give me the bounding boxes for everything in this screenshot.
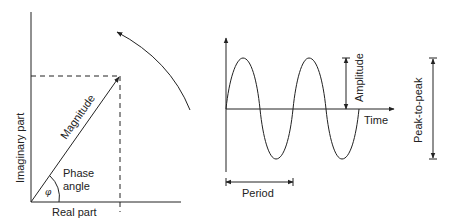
amplitude-label: Amplitude bbox=[353, 53, 365, 102]
rotation-arrow bbox=[117, 32, 190, 110]
angle-label: angle bbox=[63, 180, 90, 192]
period-label: Period bbox=[242, 187, 274, 199]
phasor-waveform-diagram: Imaginary part Real part Magnitude Phase… bbox=[0, 0, 453, 222]
phasor-diagram: Imaginary part Real part Magnitude Phase… bbox=[14, 12, 190, 218]
phase-label: Phase bbox=[63, 167, 94, 179]
phi-symbol: φ bbox=[45, 187, 52, 197]
phase-angle-arc bbox=[50, 176, 59, 202]
time-label: Time bbox=[364, 114, 388, 126]
real-part-label: Real part bbox=[52, 206, 97, 218]
imaginary-part-label: Imaginary part bbox=[14, 113, 26, 183]
peak-to-peak-label: Peak-to-peak bbox=[412, 77, 424, 143]
waveform-diagram: Amplitude Time Period Peak-to-peak bbox=[226, 38, 437, 199]
